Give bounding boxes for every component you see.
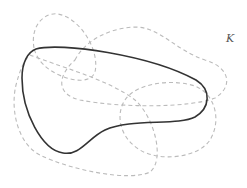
diagram-canvas	[0, 0, 247, 188]
dashed-curve-wide-upper	[62, 27, 227, 106]
set-label-k: K	[226, 32, 234, 45]
dashed-curve-lower-right	[120, 82, 216, 156]
solid-curve-k	[22, 47, 207, 153]
dashed-curve-big-lower-left	[14, 55, 157, 176]
